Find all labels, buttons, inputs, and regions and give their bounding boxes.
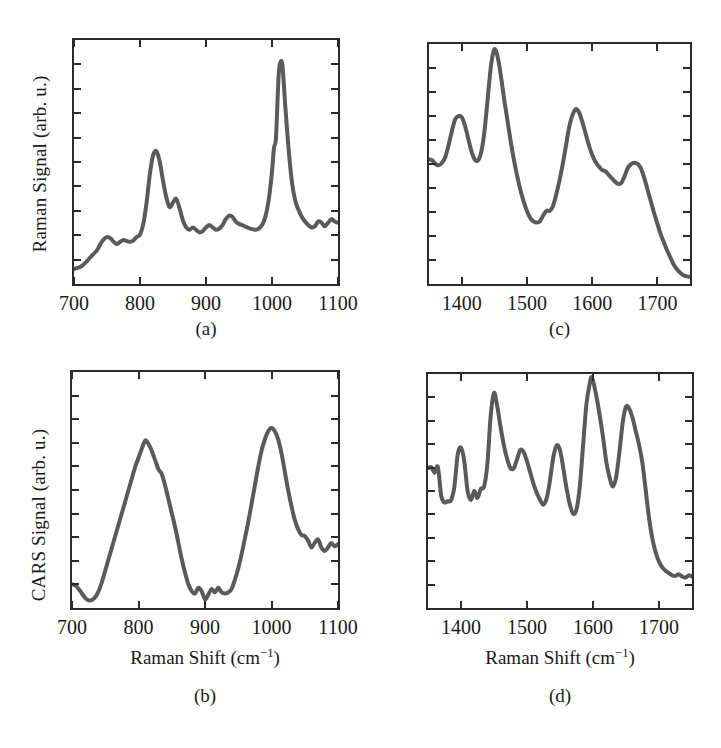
panel-b-x-axis-label-exponent: −1 xyxy=(260,646,273,660)
panel-c: Raman Signal (arb. u.) 1400150016001700 … xyxy=(360,0,721,355)
panel-d-x-axis-label: Raman Shift (cm−1) xyxy=(426,647,694,669)
panel-b-y-axis-label: CARS Signal (arb. u.) xyxy=(27,390,51,640)
panel-b: CARS Signal (arb. u.) 70080090010001100 … xyxy=(0,355,360,748)
panel-d-xtick-1600: 1600 xyxy=(573,616,613,639)
panel-c-tick-layer xyxy=(427,42,692,288)
panel-a-x-tick-labels: 70080090010001100 xyxy=(0,292,360,318)
panel-a-caption: (a) xyxy=(72,318,340,340)
panel-c-xtick-1400: 1400 xyxy=(442,292,482,315)
panel-a: Raman Signal (arb. u.) 70080090010001100… xyxy=(0,0,360,355)
panel-b-x-axis-label-pre: Raman Shift (cm xyxy=(130,647,260,668)
panel-a-xtick-700: 700 xyxy=(59,292,89,315)
panel-d-xtick-1700: 1700 xyxy=(639,616,679,639)
panel-d-x-axis-label-pre: Raman Shift (cm xyxy=(485,647,615,668)
panel-b-xtick-800: 800 xyxy=(124,616,154,639)
panel-d-caption: (d) xyxy=(426,685,694,707)
panel-a-xtick-1100: 1100 xyxy=(318,292,357,315)
panel-d-x-axis-label-exponent: −1 xyxy=(615,646,628,660)
panel-c-xtick-1700: 1700 xyxy=(637,292,677,315)
panel-b-x-axis-label-post: ) xyxy=(273,647,279,668)
panel-a-xtick-800: 800 xyxy=(125,292,155,315)
panel-b-x-tick-labels: 70080090010001100 xyxy=(0,616,360,642)
panel-a-xtick-1000: 1000 xyxy=(252,292,292,315)
panel-c-caption: (c) xyxy=(427,318,692,340)
panel-b-tick-layer xyxy=(70,370,340,612)
panel-d-xtick-1400: 1400 xyxy=(441,616,481,639)
panel-b-xtick-1100: 1100 xyxy=(318,616,357,639)
panel-b-x-axis-label: Raman Shift (cm−1) xyxy=(70,647,340,669)
panel-d-tick-layer xyxy=(426,372,694,612)
panel-b-xtick-900: 900 xyxy=(190,616,220,639)
panel-a-y-axis-label: Raman Signal (arb. u.) xyxy=(28,39,52,289)
panel-c-x-tick-labels: 1400150016001700 xyxy=(360,292,721,318)
raman-cars-figure: Raman Signal (arb. u.) 70080090010001100… xyxy=(0,0,721,748)
panel-b-caption: (b) xyxy=(70,685,340,707)
panel-a-tick-layer xyxy=(72,38,340,288)
panel-b-xtick-1000: 1000 xyxy=(252,616,292,639)
panel-d-x-tick-labels: 1400150016001700 xyxy=(360,616,721,642)
panel-d-xtick-1500: 1500 xyxy=(507,616,547,639)
panel-d-x-axis-label-post: ) xyxy=(628,647,634,668)
panel-d: CARS Signal (arb. u.) 1400150016001700 R… xyxy=(360,355,721,748)
panel-a-xtick-900: 900 xyxy=(191,292,221,315)
panel-c-xtick-1500: 1500 xyxy=(507,292,547,315)
panel-b-xtick-700: 700 xyxy=(57,616,87,639)
panel-c-xtick-1600: 1600 xyxy=(572,292,612,315)
